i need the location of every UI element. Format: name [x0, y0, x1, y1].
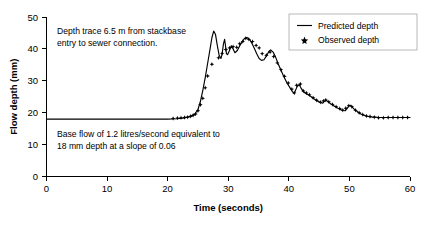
x-tick-label-0: 0	[44, 183, 49, 194]
annotation-upper-line2: entry to sewer connection.	[57, 38, 157, 48]
chart-legend: Predicted depth Observed depth	[289, 14, 417, 50]
y-tick-label-50: 50	[27, 12, 38, 23]
y-tick-label-30: 30	[27, 75, 38, 86]
x-tick-label-40: 40	[284, 183, 295, 194]
y-tick-label-0: 0	[33, 171, 38, 182]
legend-label-observed: Observed depth	[318, 35, 379, 45]
x-tick-label-30: 30	[223, 183, 234, 194]
y-tick-label-20: 20	[27, 107, 38, 118]
x-tick-label-10: 10	[102, 183, 113, 194]
legend-label-predicted: Predicted depth	[318, 21, 378, 31]
annotation-lower-line2: 18 mm depth at a slope of 0.06	[57, 141, 176, 151]
x-axis-title: Time (seconds)	[193, 202, 263, 213]
x-tick-label-50: 50	[344, 183, 355, 194]
annotation-lower-line1: Base flow of 1.2 litres/second equivalen…	[57, 129, 220, 139]
y-tick-label-10: 10	[27, 139, 38, 150]
chart-svg: 0 10 20 30 40 50 0 10 20 30 40 50 60 Tim…	[0, 0, 426, 227]
x-tick-label-60: 60	[405, 183, 416, 194]
y-axis-title: Flow depth (mm)	[8, 59, 19, 135]
x-tick-label-20: 20	[162, 183, 173, 194]
annotation-upper-line1: Depth trace 6.5 m from stackbase	[57, 26, 186, 36]
chart-figure: 0 10 20 30 40 50 0 10 20 30 40 50 60 Tim…	[0, 0, 426, 227]
y-tick-label-40: 40	[27, 43, 38, 54]
